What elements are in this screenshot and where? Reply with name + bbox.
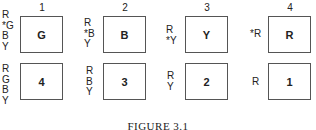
side-labels-col4-top: *R: [250, 29, 261, 40]
side-labels-col3-top: R *Y: [166, 25, 177, 46]
side-label: R: [84, 18, 95, 29]
side-label: B: [2, 85, 10, 96]
side-label: Y: [86, 87, 93, 98]
side-label: B: [2, 31, 14, 42]
side-label: Y: [2, 42, 14, 53]
box-col1-top: G: [20, 16, 63, 53]
side-label: Y: [167, 82, 174, 93]
side-label: Y: [2, 96, 10, 107]
box-col4-top: R: [268, 16, 311, 53]
side-label: Y: [84, 39, 95, 50]
box-label: 2: [203, 76, 209, 88]
side-label: *R: [250, 29, 261, 40]
box-col2-bottom: 3: [103, 63, 146, 100]
side-labels-col2-bottom: R B Y: [86, 66, 93, 98]
box-label: 4: [38, 76, 44, 88]
side-labels-col4-bottom: R: [252, 77, 259, 88]
box-col2-top: B: [103, 16, 146, 53]
box-label: 3: [121, 76, 127, 88]
side-label: R: [2, 10, 14, 21]
box-label: G: [37, 29, 46, 41]
box-label: Y: [203, 29, 210, 41]
side-labels-col2-top: R *B Y: [84, 18, 95, 50]
side-label: R: [86, 66, 93, 77]
box-col3-bottom: 2: [185, 63, 228, 100]
side-label: *Y: [166, 36, 177, 47]
box-col4-bottom: 1: [268, 63, 311, 100]
side-labels-col1-bottom: R G B Y: [2, 64, 10, 106]
column-number-4: 4: [268, 2, 312, 14]
column-number-1: 1: [20, 2, 64, 14]
side-labels-col3-bottom: R Y: [167, 71, 174, 92]
side-label: R: [166, 25, 177, 36]
box-label: 1: [286, 76, 292, 88]
column-number-2: 2: [103, 2, 147, 14]
side-label: R: [2, 64, 10, 75]
box-col1-bottom: 4: [20, 63, 63, 100]
box-label: R: [286, 29, 294, 41]
column-number-3: 3: [185, 2, 229, 14]
box-col3-top: Y: [185, 16, 228, 53]
side-label: R: [252, 77, 259, 88]
side-labels-col1-top: R *G B Y: [2, 10, 14, 52]
box-label: B: [121, 29, 129, 41]
side-label: R: [167, 71, 174, 82]
figure-caption: FIGURE 3.1: [0, 120, 316, 130]
